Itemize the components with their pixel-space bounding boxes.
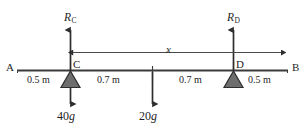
span-dimension-label-x: x (166, 44, 171, 55)
support-label-c: C (73, 59, 80, 70)
load-label-20g-value: 20 (139, 109, 151, 123)
reaction-label-rd-subscript: D (235, 16, 240, 25)
load-label-40g-value: 40 (57, 109, 69, 123)
reaction-label-rd: RD (227, 12, 239, 24)
load-label-20g-symbol: g (151, 109, 157, 123)
load-label-40g: 40g (57, 110, 75, 122)
beam-end-label-a: A (6, 62, 14, 73)
reaction-label-rc: RC (64, 12, 76, 24)
support-triangle-d (224, 71, 243, 88)
load-label-40g-symbol: g (69, 109, 75, 123)
beam-end-label-b: B (292, 62, 299, 73)
dimension-label-c-mid: 0.7 m (97, 75, 120, 85)
reaction-label-rd-base: R (227, 11, 234, 23)
reaction-label-rc-base: R (64, 11, 71, 23)
dimension-label-a-c: 0.5 m (27, 75, 50, 85)
support-label-d: D (236, 59, 244, 70)
dimension-label-d-b: 0.5 m (248, 75, 271, 85)
beam-diagram: A B C D RC RD x 0.5 m 0.7 m 0.7 m 0.5 m … (0, 0, 307, 128)
dimension-label-mid-d: 0.7 m (179, 75, 202, 85)
reaction-label-rc-subscript: C (72, 16, 77, 25)
load-label-20g: 20g (139, 110, 157, 122)
support-triangle-c (61, 71, 80, 88)
